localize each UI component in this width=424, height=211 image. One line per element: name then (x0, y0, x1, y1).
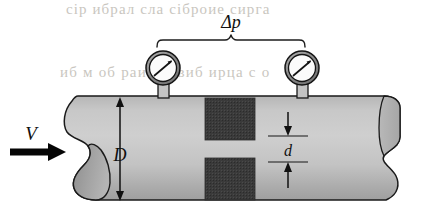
upstream-gauge-stem (158, 84, 169, 98)
downstream-gauge-stem (297, 84, 308, 98)
flow-arrow-head (48, 143, 66, 161)
orifice-meter-figure: сір ибрал сла сіброие сирга иб м об раиб… (0, 0, 424, 211)
orifice-plate-lower (205, 158, 255, 200)
pressure-drop-label: Δp (220, 12, 241, 32)
velocity-label: V (25, 123, 39, 144)
bracket-path (157, 35, 305, 47)
diagram-canvas: Δp D (0, 0, 424, 211)
downstream-pressure-gauge (285, 51, 319, 98)
pressure-drop-bracket-group (157, 35, 305, 47)
pipe-diameter-label: D (113, 145, 127, 165)
flow-direction-group: V (10, 123, 66, 161)
pipe-right-end-cap (379, 96, 400, 156)
orifice-plate-upper (205, 98, 255, 140)
orifice-diameter-label: d (284, 142, 293, 159)
upstream-pressure-gauge (146, 51, 180, 98)
